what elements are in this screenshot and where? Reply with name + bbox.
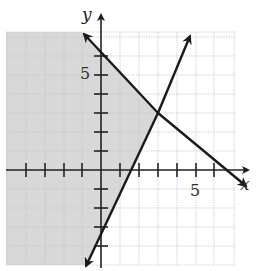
inequality-graph [0,0,256,271]
y-axis-label: y [82,4,92,24]
y-tick-label-5: 5 [80,64,90,83]
x-axis-label: x [240,174,250,194]
x-tick-label-5: 5 [190,181,200,200]
